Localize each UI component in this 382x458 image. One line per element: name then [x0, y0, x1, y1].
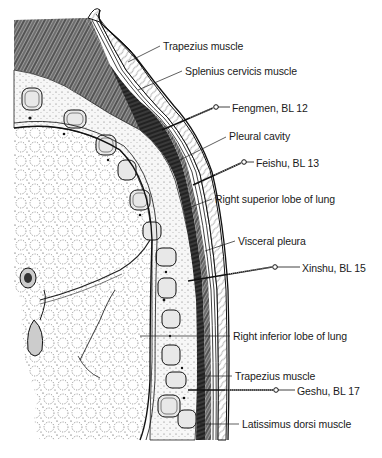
label-trapezius-muscle-upper: Trapezius muscle: [163, 40, 243, 52]
label-feishu-bl13: Feishu, BL 13: [256, 157, 319, 169]
label-fengmen-bl12: Fengmen, BL 12: [232, 102, 308, 114]
label-geshu-bl17: Geshu, BL 17: [297, 385, 360, 397]
label-splenius-cervicis-muscle: Splenius cervicis muscle: [185, 65, 297, 77]
label-visceral-pleura: Visceral pleura: [238, 235, 306, 247]
label-pleural-cavity: Pleural cavity: [229, 130, 290, 142]
label-latissimus-dorsi-muscle: Latissimus dorsi muscle: [242, 418, 351, 430]
label-trapezius-muscle-lower: Trapezius muscle: [235, 370, 315, 382]
label-xinshu-bl15: Xinshu, BL 15: [302, 262, 366, 274]
anatomical-diagram: Trapezius muscle Splenius cervicis muscl…: [0, 0, 382, 458]
label-right-inferior-lobe: Right inferior lobe of lung: [233, 330, 347, 342]
label-right-superior-lobe: Right superior lobe of lung: [215, 193, 335, 205]
